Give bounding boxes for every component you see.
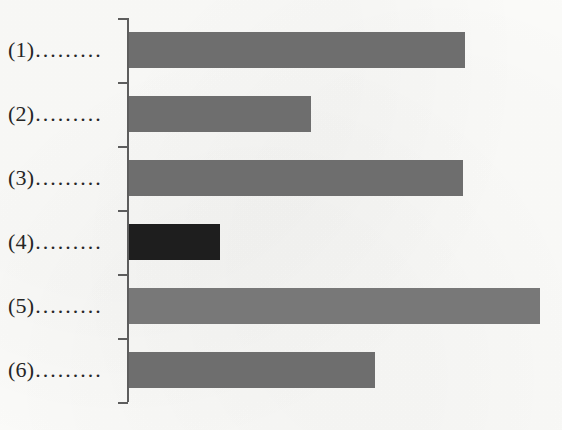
category-label-2: (2)......... <box>8 82 120 146</box>
category-label-6: (6)......... <box>8 338 120 402</box>
bar-row: (2)......... <box>0 82 562 146</box>
plot-area: (1).........(2).........(3).........(4).… <box>0 0 562 430</box>
bar-row: (3)......... <box>0 146 562 210</box>
bar-3[interactable] <box>129 160 463 196</box>
bar-chart: (1).........(2).........(3).........(4).… <box>0 0 562 430</box>
bar-4[interactable] <box>129 224 220 260</box>
bar-row: (5)......... <box>0 274 562 338</box>
bar-5[interactable] <box>129 288 540 324</box>
category-label-1: (1)......... <box>8 18 120 82</box>
bar-2[interactable] <box>129 96 311 132</box>
category-label-5: (5)......... <box>8 274 120 338</box>
category-label-4: (4)......... <box>8 210 120 274</box>
category-label-3: (3)......... <box>8 146 120 210</box>
category-key: (3) <box>8 165 34 191</box>
category-leader-dots: ......... <box>35 293 103 319</box>
category-leader-dots: ......... <box>35 37 103 63</box>
category-leader-dots: ......... <box>35 101 103 127</box>
bar-row: (4)......... <box>0 210 562 274</box>
category-key: (5) <box>8 293 34 319</box>
category-key: (1) <box>8 37 34 63</box>
category-key: (2) <box>8 101 34 127</box>
category-leader-dots: ......... <box>35 165 103 191</box>
bar-row: (1)......... <box>0 18 562 82</box>
category-leader-dots: ......... <box>35 229 103 255</box>
bar-1[interactable] <box>129 32 465 68</box>
axis-tick-6 <box>118 402 128 404</box>
category-leader-dots: ......... <box>35 357 103 383</box>
bar-row: (6)......... <box>0 338 562 402</box>
category-key: (4) <box>8 229 34 255</box>
bar-6[interactable] <box>129 352 375 388</box>
category-key: (6) <box>8 357 34 383</box>
